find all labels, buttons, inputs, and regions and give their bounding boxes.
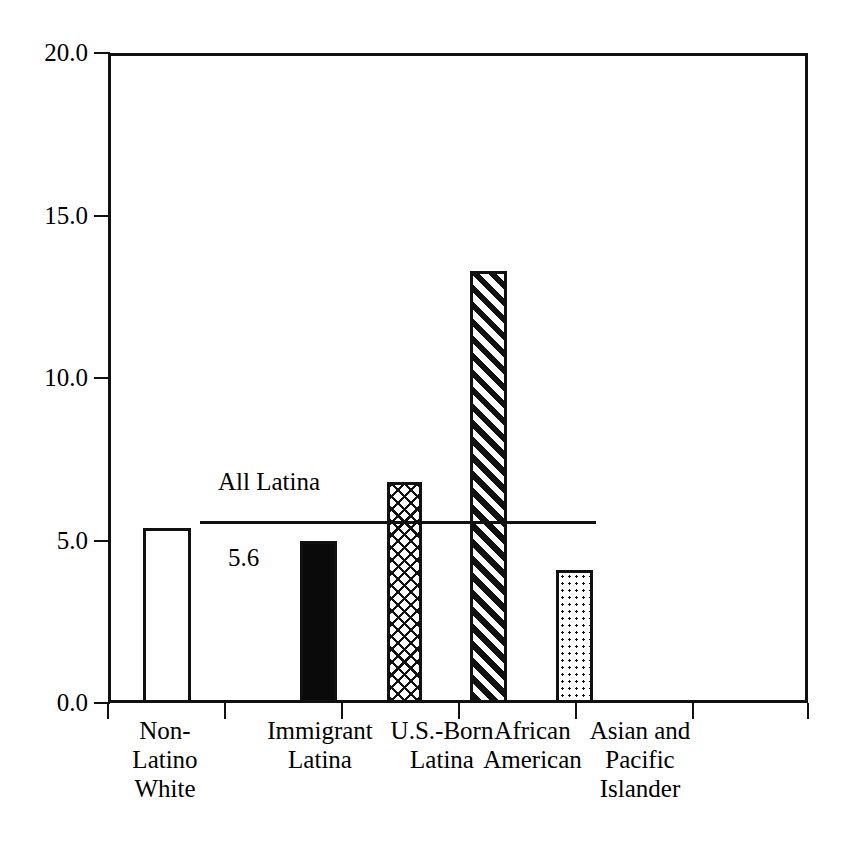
bar-1	[300, 541, 337, 704]
y-axis-tick	[94, 540, 110, 542]
bar-2	[387, 482, 422, 703]
all-latina-reference-line	[200, 521, 596, 524]
bar-0	[143, 528, 191, 704]
chart-canvas: 20.015.010.05.00.0 All Latina 5.6 Non- L…	[0, 0, 853, 858]
y-axis-tick-label-text: 0.0	[57, 690, 88, 715]
y-axis-tick	[94, 215, 110, 217]
all-latina-label: All Latina	[218, 469, 320, 494]
x-axis-category-label: Asian and Pacific Islander	[560, 716, 720, 803]
bar-4	[556, 570, 593, 703]
y-axis-tick	[94, 52, 110, 54]
y-axis-tick-label-text: 5.0	[57, 528, 88, 553]
y-axis-tick-label-text: 15.0	[44, 203, 88, 228]
x-axis-tick	[807, 703, 809, 719]
bar-3	[470, 271, 507, 703]
y-axis-tick	[94, 377, 110, 379]
y-axis-tick-label-text: 10.0	[44, 365, 88, 390]
plot-area	[108, 53, 808, 703]
x-axis-category-label: Non- Latino White	[100, 716, 230, 803]
y-axis-tick-label-text: 20.0	[44, 40, 88, 65]
all-latina-value-label: 5.6	[228, 545, 259, 570]
